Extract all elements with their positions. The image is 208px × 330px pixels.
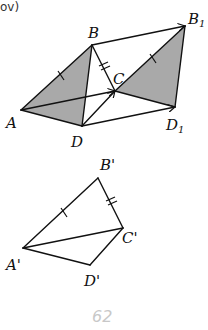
label-c: C xyxy=(113,70,125,88)
page-number: 62 xyxy=(92,307,112,326)
geometry-diagram: A B C D B 1 D 1 A' B' C' D' 62 xyxy=(0,0,208,330)
label-c-prime: C' xyxy=(122,229,138,247)
label-b: B xyxy=(87,24,99,42)
label-d: D xyxy=(70,133,83,151)
edge-bc xyxy=(92,45,115,91)
bottom-figure: A' B' C' D' xyxy=(4,156,138,290)
edge-a-prime-b-prime xyxy=(23,178,98,248)
label-b1-subscript: 1 xyxy=(199,18,205,29)
label-d1: D xyxy=(165,116,178,134)
label-d1-subscript: 1 xyxy=(178,124,184,135)
shaded-triangle-abd xyxy=(21,45,92,126)
label-b-prime: B' xyxy=(99,156,115,174)
label-a-prime: A' xyxy=(4,256,21,274)
label-d-prime: D' xyxy=(83,272,100,290)
label-a: A xyxy=(4,114,17,132)
edge-b-prime-c-prime xyxy=(98,178,123,228)
top-figure: A B C D B 1 D 1 xyxy=(4,10,205,151)
edge-a-prime-d-prime xyxy=(23,248,90,265)
vector-d-d1 xyxy=(82,107,175,126)
label-b1: B xyxy=(187,10,199,28)
